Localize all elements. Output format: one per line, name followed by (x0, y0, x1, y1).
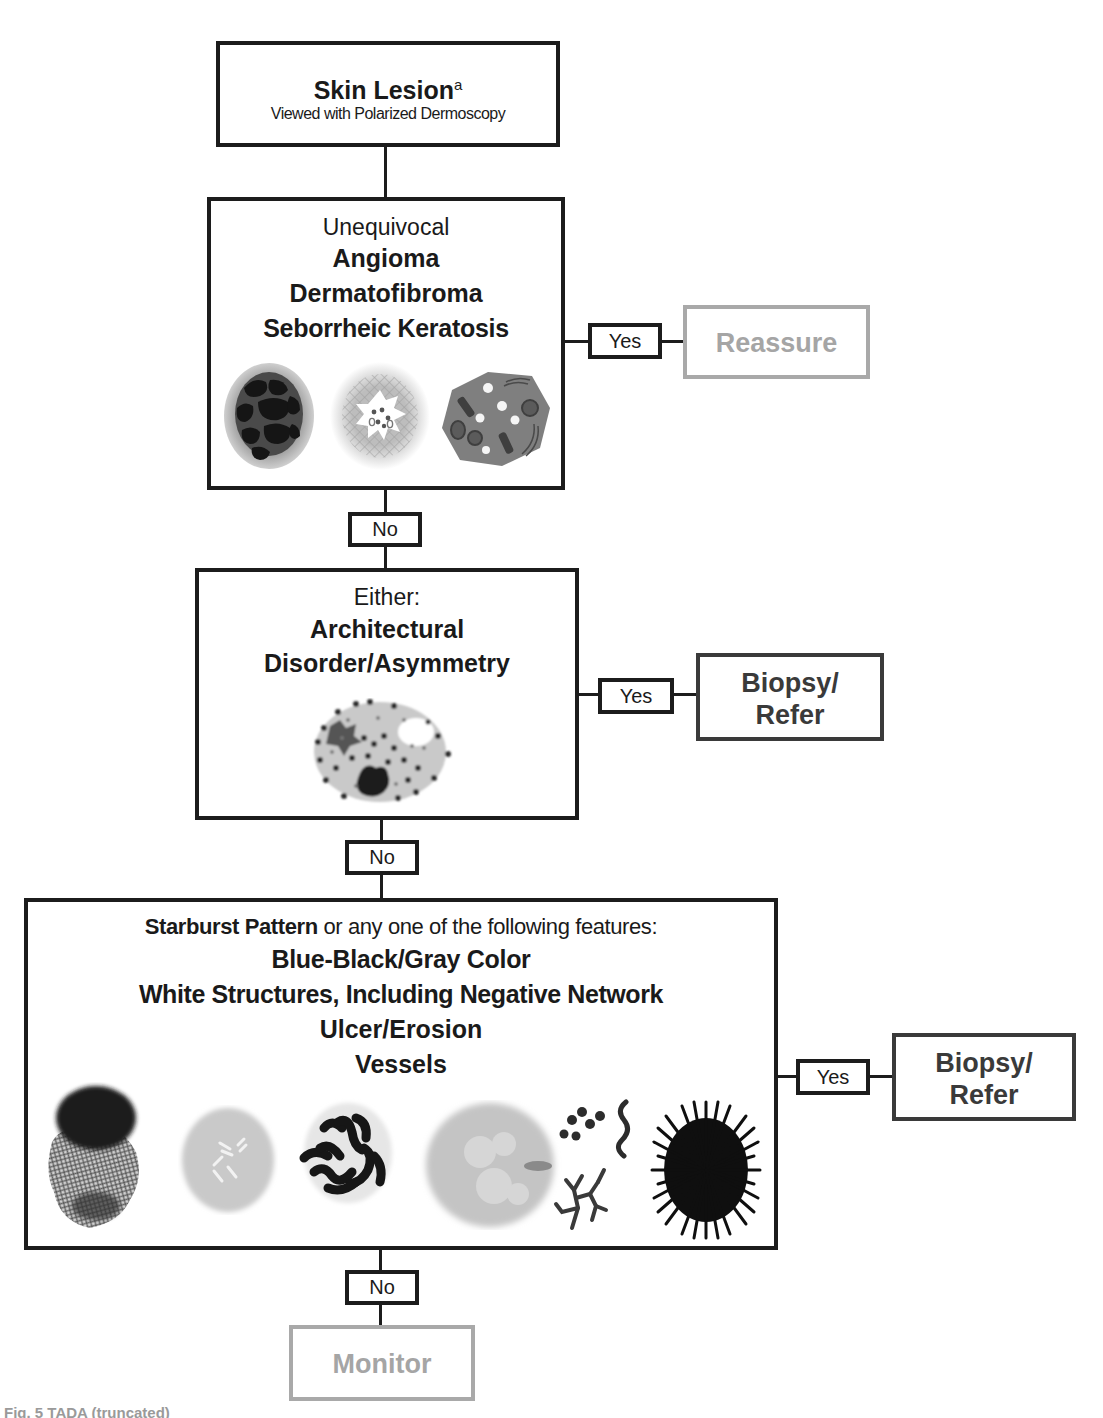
outcome-monitor: Monitor (289, 1325, 475, 1401)
step1-yes-label: Yes (588, 323, 662, 359)
step2-item-architectural: Architectural (199, 612, 575, 646)
step2-yes-label: Yes (598, 678, 674, 714)
angioma-illustration (222, 360, 317, 470)
disordered-lesion-illustration (308, 698, 458, 808)
connector-step1-yes-outcome (660, 340, 684, 343)
outcome-biopsy-refer-1: Biopsy/ Refer (696, 653, 884, 741)
connector-step2-yes-outcome (672, 693, 698, 696)
step3-item-ulcer-erosion: Ulcer/Erosion (28, 1012, 774, 1047)
outcome-reassure-label: Reassure (687, 327, 866, 359)
step1-no-label: No (348, 512, 422, 547)
outcome-biopsy-refer-1-line2: Refer (700, 699, 880, 731)
step3-yes-label: Yes (796, 1059, 870, 1095)
starburst-illustration (648, 1098, 764, 1240)
step1-item-seborrheic-keratosis: Seborrheic Keratosis (211, 311, 561, 346)
step3-lead-bold: Starburst Pattern (145, 914, 318, 939)
start-superscript: a (454, 76, 462, 93)
start-node-skin-lesion: Skin Lesiona Viewed with Polarized Dermo… (216, 41, 560, 147)
step3-lead: Starburst Pattern or any one of the foll… (28, 912, 774, 942)
outcome-biopsy-refer-2-line2: Refer (896, 1079, 1072, 1111)
outcome-reassure: Reassure (683, 305, 870, 379)
negative-network-illustration (298, 1098, 398, 1208)
step3-no-label: No (345, 1270, 419, 1305)
dermatofibroma-illustration (330, 362, 430, 470)
start-title: Skin Lesion (314, 76, 454, 104)
seborrheic-keratosis-illustration (440, 368, 552, 468)
blue-black-gray-illustration (40, 1082, 150, 1232)
outcome-monitor-label: Monitor (293, 1348, 471, 1380)
figure-caption-truncated: Fig. 5 TADA (truncated) (4, 1404, 170, 1418)
step2-no-label: No (345, 840, 419, 875)
start-subtitle: Viewed with Polarized Dermoscopy (220, 104, 556, 124)
step3-item-white-structures: White Structures, Including Negative Net… (28, 977, 774, 1012)
step2-lead: Either: (199, 582, 575, 612)
white-structures-illustration (178, 1105, 278, 1215)
outcome-biopsy-refer-2: Biopsy/ Refer (892, 1033, 1076, 1121)
step1-item-angioma: Angioma (211, 241, 561, 276)
step1-item-dermatofibroma: Dermatofibroma (211, 276, 561, 311)
step3-lead-rest: or any one of the following features: (318, 914, 657, 939)
step1-lead: Unequivocal (211, 213, 561, 241)
ulcer-erosion-illustration (420, 1100, 570, 1230)
step3-item-vessels: Vessels (28, 1047, 774, 1082)
outcome-biopsy-refer-2-line1: Biopsy/ (896, 1047, 1072, 1079)
connector-start-step1 (384, 147, 387, 199)
outcome-biopsy-refer-1-line1: Biopsy/ (700, 667, 880, 699)
step2-item-disorder-asymmetry: Disorder/Asymmetry (199, 646, 575, 680)
connector-step3-yes-outcome (868, 1075, 894, 1078)
vessels-illustration (552, 1098, 634, 1238)
step3-item-blue-black-gray: Blue-Black/Gray Color (28, 942, 774, 977)
